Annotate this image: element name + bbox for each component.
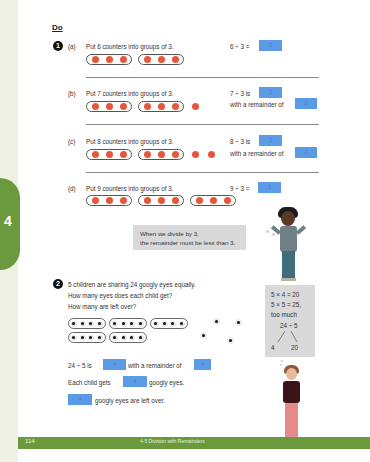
calc-line-4: 24 ÷ 5 bbox=[280, 322, 297, 329]
counter-group bbox=[86, 195, 132, 206]
bubble-line-2: the remainder must be less than 3. bbox=[140, 239, 235, 246]
thought-dot bbox=[266, 230, 269, 233]
part-c-prompt: Put 8 counters into groups of 3. bbox=[86, 138, 174, 145]
counter-group bbox=[138, 101, 184, 112]
loose-googly-eye bbox=[200, 332, 207, 339]
part-b-label: (b) bbox=[68, 90, 76, 97]
part-a-prompt: Put 6 counters into groups of 3. bbox=[86, 43, 174, 50]
part-c-equation: 8 ÷ 3 is bbox=[230, 138, 250, 145]
footer-title: 4-5 Division with Remainders bbox=[140, 438, 205, 444]
counter-group bbox=[86, 54, 132, 65]
boy-legs bbox=[282, 251, 295, 279]
split-left: 4 bbox=[271, 344, 275, 351]
part-c-remainder-text: with a remainder of bbox=[230, 150, 284, 157]
loose-googly-eye bbox=[213, 318, 220, 325]
loose-googly-eye bbox=[227, 337, 234, 344]
part-a-equation: 6 ÷ 3 = bbox=[230, 43, 249, 50]
calculation-note: 5 × 4 = 20 5 × 5 = 25, too much 24 ÷ 5 4… bbox=[265, 285, 315, 357]
part-c-remainder[interactable]: 2 bbox=[295, 147, 317, 158]
divider bbox=[86, 77, 319, 78]
q2-statement-3-suffix: googly eyes are left over. bbox=[95, 397, 165, 404]
loose-counter bbox=[208, 151, 215, 158]
boy-head bbox=[281, 211, 295, 226]
part-d-equation: 9 ÷ 3 = bbox=[230, 185, 249, 192]
q2-quotient-answer[interactable]: 4 bbox=[103, 359, 126, 370]
chapter-number: 4 bbox=[4, 213, 12, 229]
q2-each-child-answer[interactable]: 4 bbox=[123, 376, 147, 387]
bubble-line-1: When we divide by 3, bbox=[140, 230, 199, 237]
page-number: 114 bbox=[25, 438, 35, 444]
thought-dot bbox=[272, 233, 275, 236]
q2-remainder-answer[interactable]: 4 bbox=[194, 359, 211, 370]
part-d-prompt: Put 9 counters into groups of 3. bbox=[86, 185, 174, 192]
eye-group bbox=[109, 332, 147, 343]
q2-statement-1-mid: with a remainder of bbox=[128, 362, 182, 369]
q2-line-1: 5 children are sharing 24 googly eyes eq… bbox=[68, 281, 196, 288]
girl-legs bbox=[285, 403, 298, 437]
girl-body bbox=[283, 381, 300, 403]
q2-statement-1-prefix: 24 ÷ 5 is bbox=[68, 362, 92, 369]
eye-group bbox=[68, 332, 106, 343]
part-d-label: (d) bbox=[68, 185, 76, 192]
divider bbox=[86, 172, 319, 173]
q2-line-3: How many are left over? bbox=[68, 303, 136, 310]
thought-dot bbox=[280, 364, 282, 366]
section-title: Do bbox=[52, 23, 63, 32]
part-a-label: (a) bbox=[68, 43, 76, 50]
part-b-equation: 7 ÷ 3 is bbox=[230, 90, 250, 97]
q2-left-over-answer[interactable]: 4 bbox=[68, 394, 92, 405]
part-b-answer[interactable]: 2 bbox=[259, 87, 282, 98]
boy-shoes bbox=[281, 278, 296, 281]
split-right: 20 bbox=[291, 344, 298, 351]
part-c-answer[interactable]: 2 bbox=[259, 135, 282, 146]
part-b-prompt: Put 7 counters into groups of 3. bbox=[86, 90, 174, 97]
girl-head bbox=[286, 368, 297, 380]
split-lines bbox=[273, 331, 303, 343]
q2-statement-2-suffix: googly eyes. bbox=[149, 379, 184, 386]
part-a-answer[interactable]: 2 bbox=[259, 40, 282, 51]
part-b-remainder[interactable]: 1 bbox=[295, 98, 317, 109]
loose-googly-eye bbox=[235, 319, 242, 326]
thought-dot bbox=[281, 360, 283, 362]
part-d-answer[interactable]: 3 bbox=[258, 182, 281, 193]
counter-group bbox=[138, 54, 184, 65]
q2-statement-2-prefix: Each child gets bbox=[68, 379, 111, 386]
divider bbox=[86, 124, 319, 125]
part-b-remainder-text: with a remainder of bbox=[230, 101, 284, 108]
q2-line-2: How many eyes does each child get? bbox=[68, 292, 172, 299]
question-2-badge: 2 bbox=[53, 279, 63, 289]
counter-group bbox=[138, 149, 184, 160]
loose-counter bbox=[192, 151, 199, 158]
counter-group bbox=[86, 149, 132, 160]
eye-group bbox=[150, 318, 188, 329]
counter-group bbox=[190, 195, 236, 206]
calc-line-3: too much bbox=[271, 311, 297, 318]
question-1-badge: 1 bbox=[53, 41, 63, 51]
calc-line-1: 5 × 4 = 20 bbox=[271, 291, 299, 298]
counter-group bbox=[86, 101, 132, 112]
part-c-label: (c) bbox=[68, 138, 75, 145]
loose-counter bbox=[192, 103, 199, 110]
counter-group bbox=[138, 195, 184, 206]
boy-body bbox=[280, 226, 297, 252]
eye-group bbox=[109, 318, 147, 329]
calc-line-2: 5 × 5 = 25, bbox=[271, 301, 301, 308]
speech-bubble: When we divide by 3, the remainder must … bbox=[133, 225, 246, 250]
eye-group bbox=[68, 318, 106, 329]
